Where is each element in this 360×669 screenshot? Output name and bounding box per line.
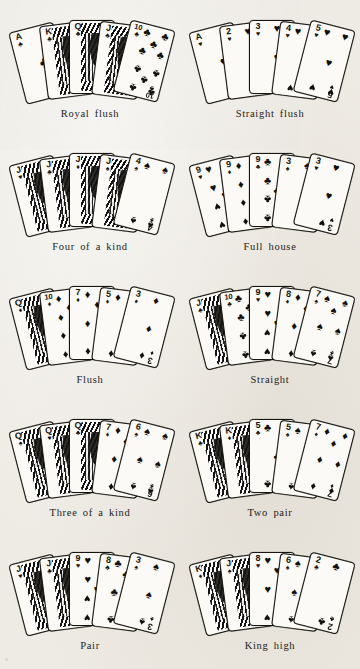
card-suit-icon: ♣ <box>264 480 271 489</box>
hand-label: Pair <box>0 640 180 651</box>
card-fan[interactable]: J♣10♣♣♣♣♣♣♣♣♣♣♣9♥♥♥♥♥♥♥♥♥♥8♦♦♦♦♦♦♦♦♦7♠♠♠… <box>180 272 360 376</box>
card-suit-icon: ♣ <box>138 46 147 56</box>
card-index-bottom: 3♦ <box>143 349 158 367</box>
hand-cell: J♥J♣J♦J♠4♠♠♠♠♠4♠Four of a kind <box>0 137 180 271</box>
card-suit-icon: ♦ <box>294 293 301 302</box>
card-suit-icon: ♥ <box>264 347 271 356</box>
card-suit-icon: ♣ <box>156 51 165 61</box>
card-suit-icon: ♠ <box>294 426 301 435</box>
card-suit-icon: ♥ <box>204 165 213 175</box>
card-fan[interactable]: A♣♣K♣Q♣J♣10♣♣♣♣♣♣♣♣♣♣♣10♣ <box>0 6 180 110</box>
card-suit-icon: ♥ <box>325 191 334 201</box>
card-suit-icon: ♦ <box>239 198 246 207</box>
card-suit-icon: ♦ <box>237 179 244 188</box>
card-fan[interactable]: J♥J♣9♥♥♥♥♥♥♥♥♥♥8♣♣♣♣♣♣♣♣♣3♠♠♠♠3♠ <box>0 538 180 642</box>
poker-hands-grid: A♣♣K♣Q♣J♣10♣♣♣♣♣♣♣♣♣♣♣10♣Royal flushA♥♥2… <box>0 0 360 669</box>
card-suit-icon: ♥ <box>264 585 271 594</box>
card-suit-icon: ♠ <box>316 321 324 331</box>
card-suit-icon: ♦ <box>309 482 317 492</box>
card-suit-icon: ♥ <box>209 183 218 193</box>
card-suit-icon: ♠ <box>341 299 349 309</box>
hand-cell: J♥J♣9♥♥♥♥♥♥♥♥♥♥8♣♣♣♣♣♣♣♣♣3♠♠♠♠3♠Pair <box>0 536 180 669</box>
card-index-bottom: 7♠ <box>323 349 338 367</box>
card-suit-icon: ♦ <box>85 290 91 299</box>
card-suit-icon: ♣ <box>264 195 271 204</box>
card-index-bottom: 3♠ <box>143 615 158 633</box>
card-suit-icon: ♥ <box>264 613 271 622</box>
hand-label: Full house <box>180 241 360 252</box>
card-fan[interactable]: K♦J♠8♥♥♥♥♥♥♥♥♥6♠♠♠♠♠♠♠2♣♣♣2♣ <box>180 538 360 642</box>
hand-cell: K♣K♦5♣♣♣♣♣♣5♠♠♠♠♠♠7♦♦♦♦♦♦♦♦7♦Two pair <box>180 403 360 537</box>
card-suit-icon: ♣ <box>142 28 151 38</box>
card-suit-icon: ♦ <box>242 217 249 226</box>
card-suit-icon: ♦ <box>341 432 349 442</box>
card-suit-icon: ♥ <box>294 27 302 37</box>
card-suit-icon: ♦ <box>85 319 91 328</box>
card-suit-icon: ♠ <box>161 432 169 442</box>
card-suit-icon: ♥ <box>218 220 227 230</box>
card-suit-icon: ♠ <box>154 459 162 469</box>
card-suit-icon: ♥ <box>84 556 91 565</box>
card-suit-icon: ♦ <box>57 312 64 321</box>
card-fan[interactable]: Q♠Q♥Q♣7♦♦♦♦♦♦♦♦6♠♠♠♠♠♠♠6♠ <box>0 405 180 509</box>
card-fan[interactable]: K♣K♦5♣♣♣♣♣♣5♠♠♠♠♠♠7♦♦♦♦♦♦♦♦7♦ <box>180 405 360 509</box>
card-suit-icon: ♠ <box>136 454 144 464</box>
card-suit-icon: ♠ <box>290 587 297 596</box>
card-suit-icon: ♥ <box>264 328 271 337</box>
hand-label: Flush <box>0 374 180 385</box>
card-suit-icon: ♦ <box>323 427 331 437</box>
card-suit-icon: ♠ <box>145 590 153 600</box>
card-suit-icon: ♣ <box>234 294 242 304</box>
card-fan[interactable]: A♥♥2♥♥♥3♥♥♥♥4♥♥♥♥♥5♥♥♥♥♥♥5♥ <box>180 6 360 110</box>
card-suit-icon: ♥ <box>309 83 318 93</box>
hand-cell: J♣10♣♣♣♣♣♣♣♣♣♣♣9♥♥♥♥♥♥♥♥♥♥8♦♦♦♦♦♦♦♦♦7♠♠♠… <box>180 270 360 404</box>
card-suit-icon: ♦ <box>114 426 121 435</box>
card-fan[interactable]: 9♥♥♥♥♥♥♥♥♥♥9♦♦♦♦♦♦♦♦♦♦9♣♣♣♣♣♣♣♣♣♣3♠♠♠♠3♥… <box>180 139 360 243</box>
card-suit-icon: ♥ <box>332 163 341 173</box>
card-suit-icon: ♣ <box>331 562 340 572</box>
card-suit-icon: ♥ <box>84 594 91 603</box>
card-suit-icon: ♣ <box>236 312 244 322</box>
card-suit-icon: ♥ <box>214 201 223 211</box>
hand-cell: A♥♥2♥♥♥3♥♥♥♥4♥♥♥♥♥5♥♥♥♥♥♥5♥Straight flus… <box>180 4 360 138</box>
card-suit-icon: ♦ <box>114 293 121 302</box>
card-suit-icon: ♦ <box>290 321 297 330</box>
card-suit-icon: ♥ <box>341 32 350 42</box>
card-suit-icon: ♥ <box>323 28 332 38</box>
hand-cell: K♦J♠8♥♥♥♥♥♥♥♥♥6♠♠♠♠♠♠♠2♣♣♣2♣King high <box>180 536 360 669</box>
hand-label: Royal flush <box>0 108 180 119</box>
card-suit-icon: ♦ <box>62 350 69 359</box>
card-suit-icon: ♦ <box>334 459 342 469</box>
card-suit-icon: ♠ <box>161 166 169 176</box>
hand-label: Four of a kind <box>0 241 180 252</box>
hand-label: Two pair <box>180 507 360 518</box>
hand-label: Straight flush <box>180 108 360 119</box>
card-suit-icon: ♠ <box>143 161 151 171</box>
card-suit-icon: ♦ <box>85 347 91 356</box>
card-suit-icon: ♠ <box>334 326 342 336</box>
card-suit-icon: ♠ <box>294 559 301 568</box>
page-corner-mark: ° <box>5 657 11 665</box>
card-suit-icon: ♥ <box>84 613 91 622</box>
card-suit-icon: ♦ <box>330 438 338 448</box>
card-suit-icon: ♣ <box>264 176 271 185</box>
card-index-bottom: 3♥ <box>323 216 338 234</box>
card-suit-icon: ♣ <box>113 558 121 568</box>
card-suit-icon: ♣ <box>110 587 118 597</box>
card-suit-icon: ♣ <box>128 82 137 92</box>
card-suit-icon: ♥ <box>84 575 91 584</box>
card-index-bottom: 6♠ <box>143 482 158 500</box>
card-suit-icon: ♦ <box>59 331 66 340</box>
card-suit-icon: ♥ <box>264 290 271 299</box>
card-suit-icon: ♣ <box>264 157 271 166</box>
hand-cell: Q♠Q♥Q♣7♦♦♦♦♦♦♦♦6♠♠♠♠♠♠♠6♠Three of a kind <box>0 403 180 537</box>
card-index-bottom: 10♣ <box>143 84 158 100</box>
card-suit-icon: ♠ <box>152 562 160 572</box>
card-suit-icon: ♣ <box>241 350 249 360</box>
card-fan[interactable]: Q♦10♦♦♦♦♦♦♦♦♦♦♦7♦♦♦♦♦♦♦♦5♦♦♦♦♦♦3♦♦♦♦3♦ <box>0 272 180 376</box>
card-suit-icon: ♥ <box>264 309 271 318</box>
card-suit-icon: ♠ <box>143 427 151 437</box>
card-index-bottom: 2♣ <box>323 615 338 633</box>
card-fan[interactable]: J♥J♣J♦J♠4♠♠♠♠♠4♠ <box>0 139 180 243</box>
hand-label: Straight <box>180 374 360 385</box>
